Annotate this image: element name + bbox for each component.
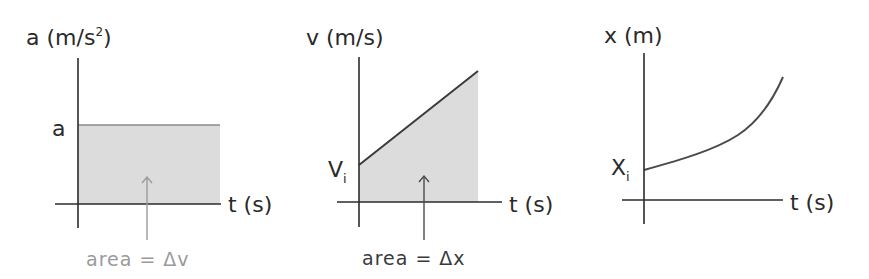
area-annotation: area = Δv xyxy=(86,248,190,270)
area-annotation: area = Δx xyxy=(362,247,466,269)
area-under-acceleration xyxy=(78,125,220,204)
y-axis-label: v (m/s) xyxy=(306,25,383,50)
intercept-label: Xi xyxy=(611,155,630,184)
graph-velocity-time: v (m/s) Vi t (s) area = Δx xyxy=(306,25,553,269)
kinematics-graphs: a (m/s2) a t (s) area = Δv v (m/s) Vi t … xyxy=(0,0,869,279)
x-axis-label: t (s) xyxy=(509,192,553,217)
area-under-velocity xyxy=(359,71,478,202)
graph-position-time: x (m) Xi t (s) xyxy=(604,23,834,224)
graph-acceleration-time: a (m/s2) a t (s) area = Δv xyxy=(26,25,272,270)
intercept-label: Vi xyxy=(328,157,347,186)
position-curve xyxy=(644,77,783,170)
y-axis-label: x (m) xyxy=(604,23,663,48)
y-axis-label: a (m/s2) xyxy=(26,25,112,50)
x-axis-label: t (s) xyxy=(790,190,834,215)
x-axis-label: t (s) xyxy=(228,192,272,217)
level-label: a xyxy=(52,116,65,141)
